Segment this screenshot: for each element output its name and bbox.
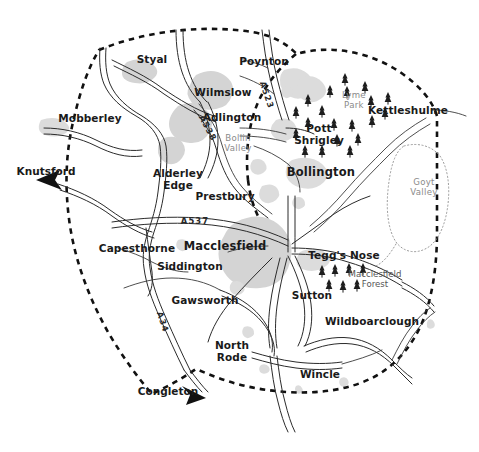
conifer-icon (347, 145, 354, 158)
conifer-icon (342, 73, 349, 86)
conifer-icon (319, 145, 326, 158)
conifer-icon (354, 279, 361, 292)
district-boundary (67, 29, 437, 394)
map-container: StyalPoyntonWilmslowMobberleyAdlingtonKe… (0, 0, 479, 452)
urban-area-alderley (158, 137, 185, 165)
goyt-valley-outline (387, 144, 448, 251)
settlement-label-styal: Styal (137, 53, 168, 65)
settlement-label-alderley-edge: AlderleyEdge (153, 167, 203, 191)
settlement-label-siddington: Siddington (157, 260, 223, 272)
conifer-icon (293, 106, 300, 119)
urban-area-minor-8 (427, 319, 435, 328)
road-label-a537: A537 (181, 216, 209, 226)
settlement-label-kettleshulme: Kettleshulme (368, 104, 448, 116)
urban-area-minor-6 (292, 197, 305, 209)
road-siddington (124, 278, 220, 290)
destination-label-congleton: Congleton (138, 385, 198, 397)
settlement-label-tegg-s-nose: Tegg's Nose (308, 249, 380, 261)
settlement-label-mobberley: Mobberley (58, 112, 122, 124)
road-mobberley-parallel (44, 134, 142, 157)
urban-area-minor-3 (259, 364, 269, 373)
conifer-icon (319, 105, 326, 118)
road-label-a34: A34 (155, 310, 171, 333)
settlement-label-wilmslow: Wilmslow (194, 86, 251, 98)
settlement-label-wildboarclough: Wildboarclough (325, 315, 419, 327)
destination-label-knutsford: Knutsford (17, 165, 76, 177)
area-label-lyme-park: LymePark (342, 89, 366, 110)
direction-arrows-layer (36, 170, 206, 405)
road-a34-west (100, 48, 184, 370)
conifer-icon (332, 264, 339, 277)
urban-area-shrigley (297, 76, 326, 102)
road-macc-southeast (288, 256, 305, 346)
conifer-icon (327, 85, 334, 98)
settlement-label-bollington: Bollington (287, 165, 356, 179)
conifer-icon (349, 119, 356, 132)
road-a34-west-parallel (106, 48, 190, 370)
area-label-goyt-valley: GoytValley (410, 176, 437, 197)
urban-area-minor-2 (242, 326, 254, 338)
settlement-label-wincle: Wincle (300, 368, 340, 380)
conifer-icon (385, 92, 392, 105)
settlement-label-capesthorne: Capesthorne (99, 242, 175, 254)
road-knutsford-parallel (60, 190, 154, 238)
district-boundary-layer (67, 29, 437, 394)
settlement-label-gawsworth: Gawsworth (171, 294, 238, 306)
settlement-label-pott-shrigley: PottShrigley (294, 122, 344, 146)
urban-area-minor-4 (339, 377, 348, 386)
map-canvas: StyalPoyntonWilmslowMobberleyAdlingtonKe… (0, 0, 479, 452)
settlement-label-sutton: Sutton (292, 289, 332, 301)
urban-area-prestbury (259, 184, 279, 203)
conifer-icon (355, 133, 362, 146)
area-label-bollin-valley: BollinValley (224, 132, 251, 153)
settlement-label-macclesfield: Macclesfield (184, 239, 267, 253)
urban-area-bollin (250, 159, 266, 175)
conifer-icon (369, 115, 376, 128)
conifer-icon (340, 280, 347, 293)
conifer-icon (302, 145, 309, 158)
settlement-label-prestbury: Prestbury (195, 190, 254, 202)
settlement-label-poynton: Poynton (239, 55, 289, 67)
settlement-label-north-rode: NorthRode (215, 339, 249, 363)
